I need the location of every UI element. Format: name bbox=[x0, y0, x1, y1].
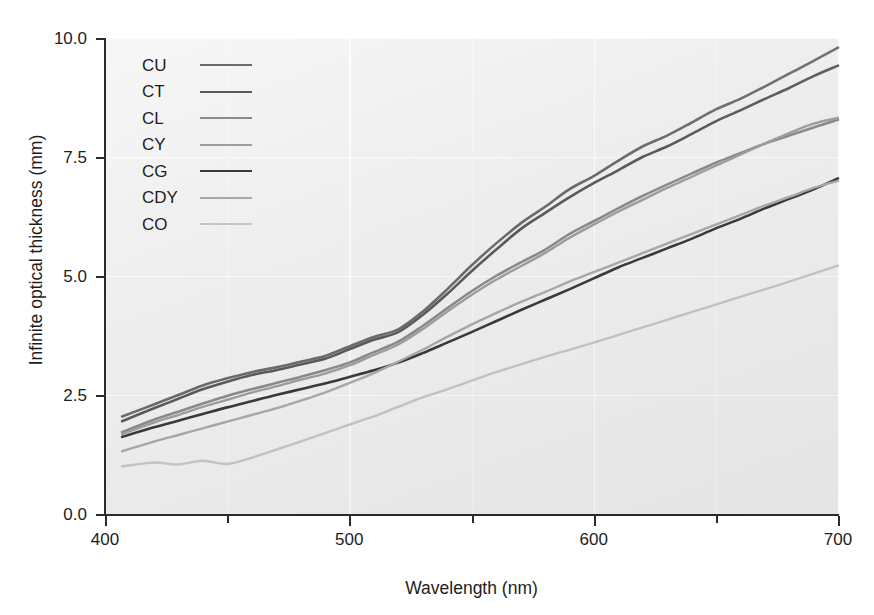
y-axis-tick bbox=[96, 514, 105, 516]
gridline-vertical bbox=[838, 38, 839, 514]
y-axis-tick-label: 10.0 bbox=[41, 30, 87, 47]
x-axis-tick-minor bbox=[716, 516, 718, 523]
x-axis-tick-label: 400 bbox=[75, 531, 135, 548]
legend-label: CG bbox=[142, 163, 194, 180]
legend-label: CO bbox=[142, 216, 194, 233]
x-axis-tick-label: 700 bbox=[808, 531, 868, 548]
legend-swatch bbox=[200, 197, 252, 199]
chart-figure: 0.02.55.07.510.0400500600700 Infinite op… bbox=[0, 0, 874, 615]
legend-swatch bbox=[200, 170, 252, 172]
y-axis-tick bbox=[96, 395, 105, 397]
legend-item: CO bbox=[142, 211, 252, 238]
x-axis-tick bbox=[838, 516, 840, 526]
legend-label: CL bbox=[142, 110, 194, 127]
y-axis-tick bbox=[96, 157, 105, 159]
y-axis-tick bbox=[96, 276, 105, 278]
x-axis-tick bbox=[594, 516, 596, 526]
x-axis-tick-label: 500 bbox=[319, 531, 379, 548]
y-axis-tick-label: 2.5 bbox=[41, 387, 87, 404]
legend-item: CL bbox=[142, 105, 252, 132]
x-axis-tick-minor bbox=[227, 516, 229, 523]
y-axis-title: Infinite optical thickness (mm) bbox=[26, 30, 47, 470]
y-axis-tick-label: 7.5 bbox=[41, 149, 87, 166]
legend-label: CU bbox=[142, 57, 194, 74]
legend-label: CY bbox=[142, 136, 194, 153]
legend: CUCTCLCYCGCDYCO bbox=[142, 52, 252, 238]
legend-swatch bbox=[200, 117, 252, 119]
x-axis-tick bbox=[349, 516, 351, 526]
legend-item: CY bbox=[142, 132, 252, 159]
y-axis-tick-label: 5.0 bbox=[41, 268, 87, 285]
legend-label: CDY bbox=[142, 189, 194, 206]
legend-swatch bbox=[200, 64, 252, 66]
x-axis-tick-label: 600 bbox=[564, 531, 624, 548]
legend-item: CG bbox=[142, 158, 252, 185]
x-axis-tick-minor bbox=[472, 516, 474, 523]
x-axis-tick bbox=[105, 516, 107, 526]
legend-label: CT bbox=[142, 83, 194, 100]
legend-swatch bbox=[200, 91, 252, 93]
x-axis-title: Wavelength (nm) bbox=[105, 578, 838, 599]
series-line-co bbox=[122, 266, 838, 467]
legend-item: CT bbox=[142, 79, 252, 106]
y-axis-tick bbox=[96, 38, 105, 40]
legend-swatch bbox=[200, 144, 252, 146]
legend-item: CDY bbox=[142, 185, 252, 212]
y-axis-tick-label: 0.0 bbox=[41, 506, 87, 523]
legend-item: CU bbox=[142, 52, 252, 79]
legend-swatch bbox=[200, 223, 252, 225]
